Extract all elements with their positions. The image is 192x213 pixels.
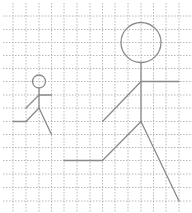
small-stick-figure: [13, 75, 52, 135]
limb-segment: [39, 108, 52, 135]
limb-segment: [26, 95, 39, 108]
limb-segment: [26, 108, 39, 122]
limb-segment: [141, 122, 179, 202]
dotted-grid: [3, 3, 192, 213]
drawing-canvas: [0, 0, 192, 213]
limb-segment: [103, 122, 142, 161]
limb-segment: [103, 82, 142, 122]
